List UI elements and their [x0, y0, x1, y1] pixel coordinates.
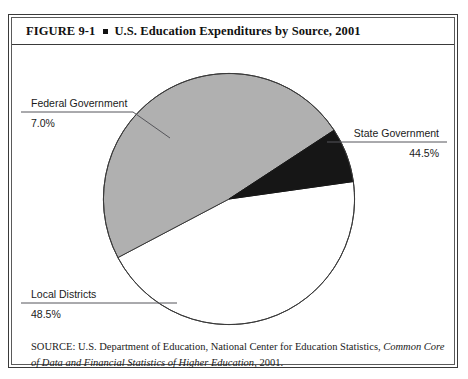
figure-frame: FIGURE 9-1U.S. Education Expenditures by…	[8, 14, 458, 368]
source-suffix: , 2001.	[254, 357, 283, 368]
callout-local-value: 48.5%	[31, 307, 96, 322]
source-prefix: SOURCE: U.S. Department of Education, Na…	[31, 341, 383, 352]
figure-title-bar: FIGURE 9-1U.S. Education Expenditures by…	[12, 18, 454, 45]
callout-federal-label: Federal Government	[31, 96, 127, 111]
square-bullet-icon	[103, 29, 108, 34]
callout-federal-government: Federal Government 7.0%	[31, 96, 127, 131]
page-title: FIGURE 9-1U.S. Education Expenditures by…	[26, 24, 361, 39]
figure-number: FIGURE 9-1	[26, 24, 95, 38]
callout-local-label: Local Districts	[31, 287, 96, 302]
callout-state-government: State Government 44.5%	[354, 126, 439, 161]
chart-area: Federal Government 7.0% State Government…	[9, 46, 453, 332]
callout-state-value: 44.5%	[354, 146, 439, 161]
figure-title-text: U.S. Education Expenditures by Source, 2…	[114, 24, 360, 38]
callout-federal-value: 7.0%	[31, 116, 127, 131]
callout-local-districts: Local Districts 48.5%	[31, 287, 96, 322]
callout-state-label: State Government	[354, 126, 439, 141]
source-note: SOURCE: U.S. Department of Education, Na…	[31, 339, 445, 371]
